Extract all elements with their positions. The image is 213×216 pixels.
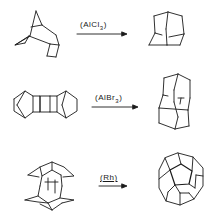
reactant-2-structure	[14, 91, 77, 118]
reagent-label-1: (AlCl3)	[80, 20, 107, 31]
product-1-adamantane	[149, 12, 184, 45]
reaction-scheme	[0, 0, 213, 216]
reactant-3-structure	[25, 162, 74, 210]
arrow-3	[99, 184, 127, 188]
reagent-label-3: (Rh)	[100, 173, 118, 184]
arrow-1	[77, 32, 127, 36]
product-2-diamantane	[159, 74, 190, 129]
arrow-2	[92, 105, 138, 109]
reactant-1-structure	[15, 11, 59, 57]
reagent-label-2: (AlBr3)	[95, 93, 122, 104]
product-3-dodecahedrane	[159, 153, 203, 205]
